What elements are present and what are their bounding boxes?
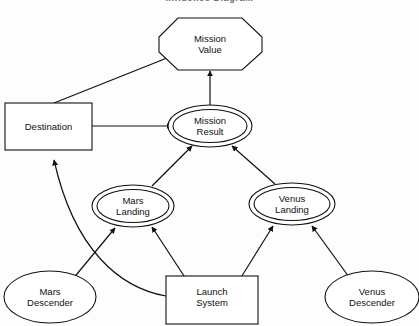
edge-destination-to-mission-value <box>54 56 172 103</box>
edge-launch-system-to-venus-landing <box>240 226 273 279</box>
node-mission-result[interactable] <box>168 105 252 147</box>
node-mars-descender[interactable] <box>4 271 96 323</box>
node-venus-descender[interactable] <box>325 271 419 323</box>
node-launch-system[interactable] <box>166 276 258 324</box>
node-mission-value[interactable] <box>159 18 262 70</box>
diagram-canvas <box>0 0 419 326</box>
node-destination[interactable] <box>5 103 92 150</box>
edge-venus-landing-to-mission-result <box>232 146 275 184</box>
edge-mars-descender-to-mars-landing <box>72 228 115 280</box>
influence-diagram: Influence Diagram <box>0 0 419 326</box>
edge-launch-system-to-mars-landing <box>152 227 186 279</box>
edge-mars-landing-to-mission-result <box>152 146 192 186</box>
node-mars-landing[interactable] <box>92 185 174 227</box>
node-venus-landing[interactable] <box>249 183 335 225</box>
edge-venus-descender-to-venus-landing <box>312 226 349 277</box>
edge-layer <box>54 56 349 296</box>
